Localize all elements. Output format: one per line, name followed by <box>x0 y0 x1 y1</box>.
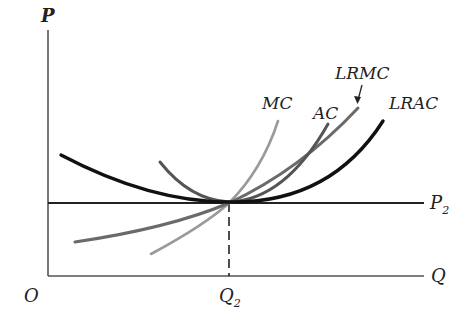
lrac-label: LRAC <box>388 93 438 113</box>
x-axis-label: Q <box>431 265 446 286</box>
origin-label: O <box>24 285 39 306</box>
ac-label: AC <box>311 103 338 123</box>
mc-label: MC <box>261 93 292 113</box>
y-axis-label: P <box>40 5 55 26</box>
quantity-label-q2: Q2 <box>219 285 241 310</box>
lrmc-arrow-icon <box>354 85 362 104</box>
lrmc-label: LRMC <box>334 63 390 83</box>
cost-curves-diagram: P Q O P2 Q2 MC AC LRMC LRAC <box>0 0 472 325</box>
price-label-p2: P2 <box>429 192 449 217</box>
lrmc-curve <box>75 108 358 242</box>
